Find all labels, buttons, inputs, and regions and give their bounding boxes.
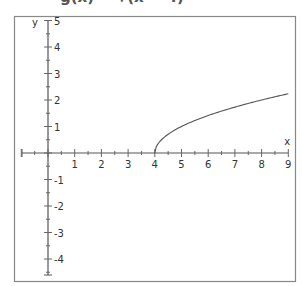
x-axis-label: x: [284, 136, 290, 147]
x-tick-label: 5: [178, 159, 184, 170]
plot-area: 12345678954321-1-2-3-4xy: [0, 0, 302, 286]
y-tick-label: 4: [54, 42, 60, 53]
x-tick-label: 7: [232, 159, 238, 170]
x-tick-label: 2: [98, 159, 104, 170]
y-tick-label: -2: [54, 201, 64, 212]
x-tick-label: 6: [205, 159, 211, 170]
y-tick-label: 2: [54, 95, 60, 106]
x-tick-label: 3: [125, 159, 131, 170]
y-tick-label: -3: [54, 228, 64, 239]
x-tick-label: 1: [72, 159, 78, 170]
x-tick-label: 4: [152, 159, 158, 170]
y-axis-label: y: [32, 17, 38, 28]
x-tick-label: 8: [258, 159, 264, 170]
y-tick-label: 5: [54, 16, 60, 27]
y-tick-label: -1: [54, 175, 64, 186]
y-tick-label: 1: [54, 122, 60, 133]
function-curve: [155, 94, 288, 153]
y-tick-label: 3: [54, 69, 60, 80]
x-tick-label: 9: [285, 159, 291, 170]
y-tick-label: -4: [54, 254, 64, 265]
